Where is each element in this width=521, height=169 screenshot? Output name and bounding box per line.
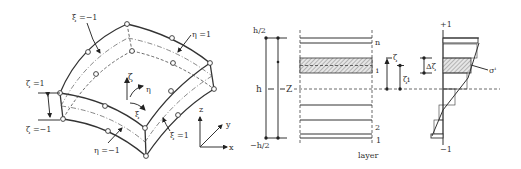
local-axes: ζ η ξ (127, 72, 151, 119)
global-y-axis (200, 125, 222, 147)
zeta-minus-label: ζ =−1 (26, 125, 51, 134)
profile-distribution-line (432, 43, 479, 136)
delta-zeta-label: Δζ (426, 62, 437, 71)
local-eta-arrow (130, 86, 143, 97)
shell-hidden-left (63, 51, 132, 119)
shell-layer-diagram: ζ η ξ ξ =−1 η =1 ξ =1 η =−1 ζ =1 ζ =−1 z… (0, 0, 521, 169)
layer-stack: h/2 −h/2 h Z n i 2 1 layer (250, 26, 500, 160)
shell-top-front-edge (60, 93, 145, 128)
sigma-label: σⁱ (489, 66, 496, 75)
local-zeta-label: ζ (128, 72, 133, 82)
shell-mid-front (61, 106, 145, 142)
layer-2-label: 2 (375, 123, 380, 132)
thickness-arrow (48, 96, 50, 117)
zeta-i-dim-label: ζi (403, 75, 410, 84)
mid-surface-label: Z (286, 84, 292, 94)
profile-block (443, 44, 477, 58)
profile-bottom-label: −1 (440, 145, 452, 154)
shell-element: ζ η ξ ξ =−1 η =1 ξ =1 η =−1 ζ =1 ζ =−1 z… (26, 13, 234, 158)
zeta-dim-label: ζ (393, 53, 398, 62)
stress-profile: +1 −1 Δζ σⁱ (420, 20, 496, 154)
xi-minus-leader (87, 23, 100, 53)
top-half-thickness-label: h/2 (253, 26, 266, 35)
local-xi-arrow (130, 103, 145, 110)
zeta-plus-label: ζ =1 (26, 79, 45, 88)
thickness-label: h (256, 84, 262, 94)
layer-1-label: 1 (376, 136, 381, 145)
xi-plus-label: ξ =1 (170, 131, 189, 140)
global-x-label: x (229, 143, 234, 152)
shell-hidden-vertical (127, 24, 132, 51)
profile-block (443, 73, 467, 89)
local-xi-label: ξ (135, 110, 140, 119)
shell-top-left-edge (60, 24, 127, 93)
profile-block-i (443, 58, 471, 73)
layer-i-label: i (376, 66, 379, 75)
xi-minus-label: ξ =−1 (72, 13, 97, 22)
eta-minus-label: η =−1 (94, 146, 120, 155)
sigma-leader (471, 65, 488, 70)
eta-plus-label: η =1 (192, 30, 211, 39)
local-eta-label: η (146, 85, 151, 94)
global-axes: z y x (199, 105, 234, 152)
layer-axis-label: layer (358, 151, 379, 160)
shell-bottom-right-edge (146, 89, 214, 156)
global-y-label: y (225, 120, 231, 129)
global-z-label: z (199, 105, 203, 114)
bottom-half-thickness-label: −h/2 (250, 141, 270, 150)
layer-n-label: n (375, 38, 380, 47)
profile-block-n (443, 38, 478, 43)
profile-top-label: +1 (440, 20, 452, 29)
